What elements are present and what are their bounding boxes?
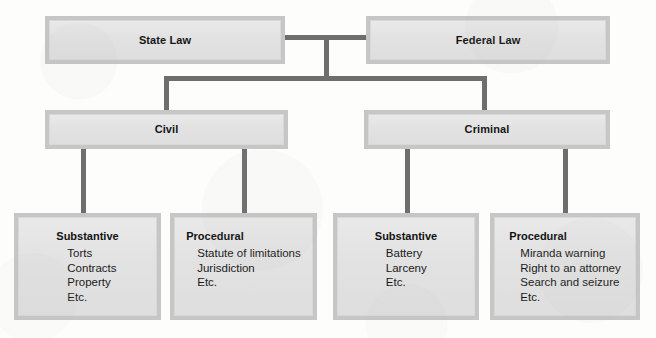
connector-distribution-bar (164, 76, 487, 81)
list-item: Etc. (197, 275, 301, 290)
node-criminal-substantive-surface: Substantive Battery Larceny Etc. (337, 217, 475, 316)
leaf-item-list: Miranda warning Right to an attorney Sea… (509, 246, 620, 304)
node-criminal-substantive[interactable]: Substantive Battery Larceny Etc. (333, 213, 479, 320)
leaf-item-list: Torts Contracts Property Etc. (56, 246, 118, 304)
node-state-law-surface: State Law (49, 20, 281, 60)
list-item: Miranda warning (520, 246, 620, 261)
leaf-item-list: Battery Larceny Etc. (375, 246, 437, 290)
list-item: Etc. (67, 290, 118, 305)
connector-bar-to-civil (164, 76, 169, 112)
node-civil-substantive-surface: Substantive Torts Contracts Property Etc… (18, 217, 157, 316)
list-item: Contracts (67, 261, 118, 276)
node-criminal-label: Criminal (465, 124, 510, 135)
connector-federallaw-to-trunk (324, 35, 369, 40)
list-item: Search and seizure (520, 275, 620, 290)
node-federal-law-label: Federal Law (456, 35, 521, 46)
leaf-item-list: Statute of limitations Jurisdiction Etc. (186, 246, 301, 290)
leaf-heading: Substantive (56, 231, 118, 242)
node-civil-procedural-surface: Procedural Statute of limitations Jurisd… (174, 217, 313, 316)
leaf-text-block: Procedural Statute of limitations Jurisd… (186, 231, 301, 290)
list-item: Right to an attorney (520, 261, 620, 276)
connector-civil-to-substantive (81, 148, 86, 214)
list-item: Property (67, 275, 118, 290)
node-civil-label: Civil (155, 124, 179, 135)
connector-criminal-to-procedural (563, 148, 568, 214)
list-item: Etc. (520, 290, 620, 305)
list-item: Jurisdiction (197, 261, 301, 276)
node-federal-law[interactable]: Federal Law (366, 16, 610, 64)
node-civil-surface: Civil (49, 114, 284, 145)
leaf-text-block: Procedural Miranda warning Right to an a… (509, 231, 620, 304)
node-civil[interactable]: Civil (45, 110, 288, 149)
law-hierarchy-diagram: State Law Federal Law Civil Criminal Sub… (0, 0, 656, 338)
node-civil-procedural[interactable]: Procedural Statute of limitations Jurisd… (170, 213, 317, 320)
node-federal-law-surface: Federal Law (370, 20, 606, 60)
node-criminal-procedural[interactable]: Procedural Miranda warning Right to an a… (490, 213, 640, 320)
leaf-heading: Procedural (186, 231, 301, 242)
node-criminal-procedural-surface: Procedural Miranda warning Right to an a… (494, 217, 636, 316)
leaf-heading: Procedural (509, 231, 620, 242)
leaf-text-block: Substantive Battery Larceny Etc. (375, 231, 437, 290)
connector-civil-to-procedural (242, 148, 247, 214)
node-criminal-surface: Criminal (368, 114, 606, 145)
list-item: Battery (386, 246, 437, 261)
connector-bar-to-criminal (482, 76, 487, 112)
node-state-law[interactable]: State Law (45, 16, 285, 64)
node-state-law-label: State Law (139, 35, 191, 46)
list-item: Statute of limitations (197, 246, 301, 261)
leaf-text-block: Substantive Torts Contracts Property Etc… (56, 231, 118, 304)
node-civil-substantive[interactable]: Substantive Torts Contracts Property Etc… (14, 213, 161, 320)
connector-criminal-to-substantive (405, 148, 410, 214)
list-item: Larceny (386, 261, 437, 276)
leaf-heading: Substantive (375, 231, 437, 242)
list-item: Torts (67, 246, 118, 261)
connector-statelaw-to-trunk (283, 35, 329, 40)
list-item: Etc. (386, 275, 437, 290)
connector-trunk-vertical (324, 35, 329, 80)
node-criminal[interactable]: Criminal (364, 110, 610, 149)
